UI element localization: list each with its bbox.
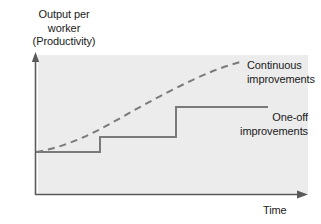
one-off-improvements-annotation: One-off improvements (196, 110, 308, 138)
x-axis-label: Time (263, 204, 313, 218)
productivity-improvements-chart: Output per worker (Productivity) Continu… (0, 0, 321, 224)
continuous-improvements-annotation: Continuous improvements (247, 58, 319, 86)
